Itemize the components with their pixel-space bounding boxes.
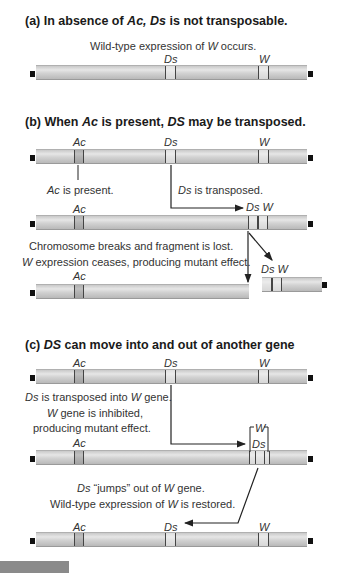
w-bracket-left <box>250 427 254 435</box>
ds-transpose-arrow <box>171 165 243 208</box>
ds-jump-out-arrow <box>185 468 258 523</box>
w-bracket-right <box>264 427 268 452</box>
corner-block <box>0 561 69 573</box>
ds-into-w-arrow <box>171 385 245 444</box>
fragment-lost-arrow <box>249 233 272 260</box>
arrows-layer <box>0 0 345 573</box>
